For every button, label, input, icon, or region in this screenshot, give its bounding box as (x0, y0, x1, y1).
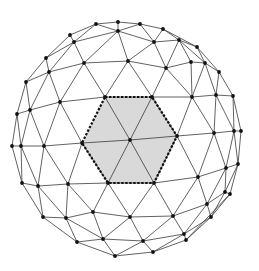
mesh-vertex (128, 138, 132, 142)
mesh-vertex (20, 181, 24, 185)
mesh-vertex (28, 108, 32, 112)
mesh-vertex (161, 27, 165, 31)
mesh-vertex (151, 250, 155, 254)
mesh-vertex (72, 40, 76, 44)
mesh-vertex (68, 33, 72, 37)
mesh-vertex (152, 181, 156, 185)
mesh-vertex (190, 95, 194, 99)
mesh-vertex (24, 80, 28, 84)
mesh-vertex (15, 112, 19, 116)
mesh-vertex (150, 95, 154, 99)
mesh-vertex (58, 100, 62, 104)
mesh-vertex (152, 40, 156, 44)
mesh-vertex (228, 192, 232, 196)
mesh-vertex (232, 129, 236, 133)
mesh-vertex (177, 38, 181, 42)
mesh-vertex (126, 59, 130, 63)
mesh-vertex (42, 144, 46, 148)
mesh-vertex (212, 131, 216, 135)
mesh-vertex (113, 254, 117, 258)
geodesic-sphere-diagram (0, 0, 259, 271)
mesh-vertex (223, 190, 227, 194)
mesh-vertex (106, 181, 110, 185)
mesh-vertex (75, 240, 79, 244)
mesh-vertex (164, 66, 168, 70)
mesh-vertex (66, 182, 70, 186)
mesh-vertex (138, 22, 142, 26)
mesh-vertex (209, 215, 213, 219)
mesh-vertex (195, 45, 199, 49)
mesh-vertex (184, 238, 188, 242)
mesh-vertex (94, 22, 98, 26)
mesh-vertex (236, 162, 240, 166)
mesh-vertex (36, 184, 40, 188)
mesh-vertex (203, 61, 207, 65)
mesh-vertex (128, 215, 132, 219)
mesh-vertex (116, 29, 120, 33)
mesh-vertex (224, 166, 228, 170)
mesh-vertex (19, 144, 23, 148)
mesh-vertex (41, 215, 45, 219)
mesh-vertex (101, 237, 105, 241)
mesh-vertex (189, 60, 193, 64)
mesh-vertex (10, 144, 14, 148)
mesh-vertex (196, 175, 200, 179)
mesh-vertex (231, 94, 235, 98)
mesh-vertex (64, 216, 68, 220)
mesh-vertex (141, 239, 145, 243)
mesh-vertex (217, 70, 221, 74)
mesh-vertex (103, 95, 107, 99)
mesh-vertex (116, 20, 120, 24)
mesh-vertex (82, 61, 86, 65)
mesh-vertex (44, 56, 48, 60)
mesh-vertex (171, 214, 175, 218)
mesh-vertex (205, 202, 209, 206)
mesh-vertex (47, 70, 51, 74)
mesh-vertex (182, 232, 186, 236)
mesh-vertex (239, 129, 243, 133)
mesh-vertex (175, 134, 179, 138)
mesh-vertex (91, 210, 95, 214)
mesh-vertex (214, 93, 218, 97)
mesh-vertex (80, 141, 84, 145)
